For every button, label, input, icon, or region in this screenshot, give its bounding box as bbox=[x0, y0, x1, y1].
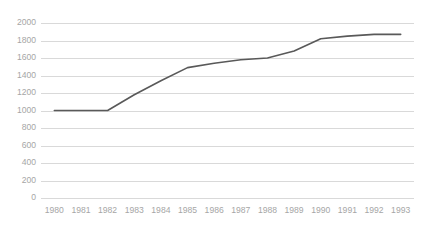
x-axis-tick-label: 1993 bbox=[391, 205, 410, 215]
y-axis-tick-label: 1800 bbox=[17, 35, 36, 45]
x-axis-tick-label: 1991 bbox=[338, 205, 357, 215]
y-axis-tick-label: 1000 bbox=[17, 105, 36, 115]
x-axis-tick-label: 1984 bbox=[151, 205, 170, 215]
x-axis-tick-label: 1989 bbox=[285, 205, 304, 215]
y-axis-tick-label: 0 bbox=[31, 192, 36, 202]
y-axis-tick-label: 200 bbox=[22, 175, 37, 185]
y-axis-tick-label: 800 bbox=[22, 122, 37, 132]
chart-background bbox=[0, 0, 430, 240]
x-axis-tick-label: 1992 bbox=[364, 205, 383, 215]
x-axis-tick-label: 1980 bbox=[45, 205, 64, 215]
x-axis-tick-label: 1986 bbox=[205, 205, 224, 215]
x-axis-tick-label: 1988 bbox=[258, 205, 277, 215]
chart-canvas: 0200400600800100012001400160018002000 19… bbox=[0, 0, 430, 240]
y-axis-tick-label: 1200 bbox=[17, 87, 36, 97]
y-axis-tick-label: 1400 bbox=[17, 70, 36, 80]
x-axis-tick-label: 1982 bbox=[98, 205, 117, 215]
x-axis-tick-label: 1987 bbox=[231, 205, 250, 215]
line-chart: 0200400600800100012001400160018002000 19… bbox=[0, 0, 430, 240]
y-axis-tick-label: 400 bbox=[22, 157, 37, 167]
x-axis-tick-label: 1990 bbox=[311, 205, 330, 215]
y-axis-tick-label: 1600 bbox=[17, 52, 36, 62]
x-axis-tick-label: 1981 bbox=[71, 205, 90, 215]
x-axis-tick-label: 1983 bbox=[125, 205, 144, 215]
y-axis-tick-label: 600 bbox=[22, 140, 37, 150]
x-axis-tick-label: 1985 bbox=[178, 205, 197, 215]
y-axis-tick-label: 2000 bbox=[17, 17, 36, 27]
